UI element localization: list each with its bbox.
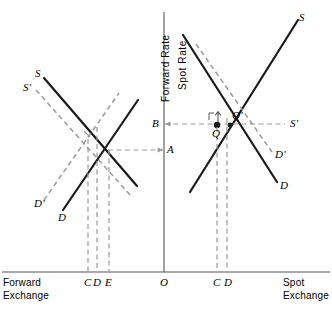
right-curve-D-prime — [196, 44, 272, 152]
left-curve-label-S-prime: S' — [23, 82, 31, 93]
point-label-Q-prime: Q' — [232, 110, 243, 121]
left-x-tick-label-E: E — [105, 277, 112, 288]
origin-label: O — [160, 277, 168, 288]
left-curve-label-S: S — [35, 68, 41, 79]
right-intersection-arrow — [215, 112, 220, 122]
left-x-tick-label-C: C — [84, 277, 92, 288]
figure-canvas: Forward Rate Spot Rate S S' D D' A C D E… — [0, 0, 332, 318]
left-y-tick-label-A: A — [167, 144, 174, 155]
left-curve-D — [63, 100, 138, 210]
right-x-tick-label-C: C — [213, 277, 221, 288]
right-curve-label-S: S — [299, 12, 305, 23]
point-label-Q: Q — [212, 128, 220, 139]
left-axis-name-forward-exchange: Forward Exchange — [3, 277, 49, 302]
right-curve-label-D-prime: D' — [275, 149, 286, 160]
right-curve-label-D: D — [280, 180, 288, 191]
right-guide-arrowhead-B — [165, 122, 171, 127]
right-axis-name-spot-exchange: Spot Exchange — [283, 277, 329, 302]
vertical-axis-spot-rate-label: Spot Rate — [177, 40, 188, 90]
left-x-tick-label-D: D — [93, 277, 101, 288]
left-curve-label-D: D — [58, 212, 66, 223]
right-curve-D — [183, 35, 277, 182]
left-curve-label-D-prime: D' — [34, 198, 45, 209]
point-Q-prime-marker — [228, 123, 233, 128]
vertical-axis-forward-rate-label: Forward Rate — [160, 34, 171, 102]
left-guide-arrowhead-A — [158, 148, 164, 153]
right-x-tick-label-D: D — [224, 277, 232, 288]
right-curve-label-S-prime: S' — [290, 118, 298, 129]
right-curve-S — [190, 20, 298, 192]
right-y-tick-label-B: B — [152, 118, 159, 129]
